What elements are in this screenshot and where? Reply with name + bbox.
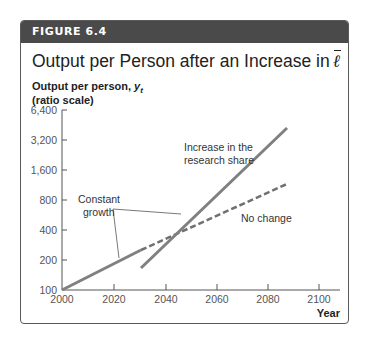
x-ticks: 2000 2020 2040 2060 2080 2100 — [50, 284, 331, 305]
x-tick-label: 2100 — [307, 293, 331, 305]
x-tick-label: 2080 — [256, 293, 280, 305]
annotation-no-change: No change — [241, 212, 292, 224]
y-tick-label: 200 — [39, 254, 57, 266]
x-tick-label: 2040 — [154, 293, 178, 305]
y-tick-label: 1,600 — [31, 164, 57, 176]
y-tick-label: 400 — [39, 224, 57, 236]
x-tick-label: 2000 — [50, 293, 74, 305]
annotation-increase-1: Increase in the — [184, 141, 253, 153]
y-tick-label: 6,400 — [31, 104, 57, 116]
annotation-increase-2: research share — [184, 154, 254, 166]
x-tick-label: 2060 — [205, 293, 229, 305]
y-tick-label: 3,200 — [31, 134, 57, 146]
annotation-constant: Constant — [78, 193, 120, 205]
x-axis-label: Year — [317, 307, 341, 319]
chart-plot: 6,400 3,200 1,600 800 400 200 100 2000 2… — [0, 0, 366, 341]
x-tick-label: 2020 — [102, 293, 126, 305]
y-tick-label: 800 — [39, 194, 57, 206]
annotation-growth: growth — [83, 206, 115, 218]
series-constant-growth — [62, 250, 141, 290]
constant-growth-callout — [113, 209, 181, 258]
